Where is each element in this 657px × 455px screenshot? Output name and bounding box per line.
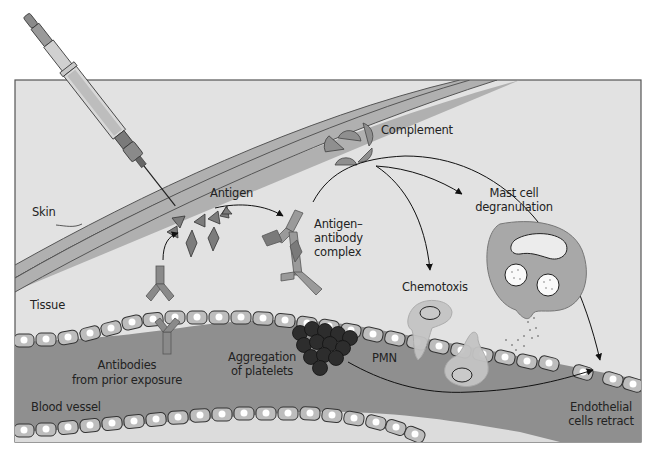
label-chemotoxis: Chemotoxis xyxy=(402,280,468,294)
diagram: Skin Tissue Antigen Antigen– antibody co… xyxy=(0,0,657,455)
label-antibodies-line1: Antibodies xyxy=(72,358,182,372)
label-antibodies-line2: from prior exposure xyxy=(72,373,182,387)
label-mast-cell-line2: degranulation xyxy=(466,200,562,214)
label-pmn: PMN xyxy=(372,351,397,365)
label-endothelial-line1: Endothelial xyxy=(564,400,638,414)
label-complex-line3: complex xyxy=(314,245,361,259)
label-aggregation-line2: of platelets xyxy=(228,364,296,378)
pmn-nucleus-1 xyxy=(420,307,440,320)
label-complement: Complement xyxy=(381,123,453,137)
label-antigen: Antigen xyxy=(210,186,253,200)
label-endothelial-line2: cells retract xyxy=(564,414,638,428)
label-mast-cell-line1: Mast cell xyxy=(466,186,562,200)
label-complex-line1: Antigen– xyxy=(314,217,363,231)
label-complex-line2: antibody xyxy=(314,231,363,245)
label-skin: Skin xyxy=(32,205,56,219)
pmn-nucleus-2 xyxy=(452,368,472,382)
label-blood-vessel: Blood vessel xyxy=(31,400,101,414)
label-tissue: Tissue xyxy=(30,298,65,312)
label-aggregation-line1: Aggregation xyxy=(228,350,296,364)
